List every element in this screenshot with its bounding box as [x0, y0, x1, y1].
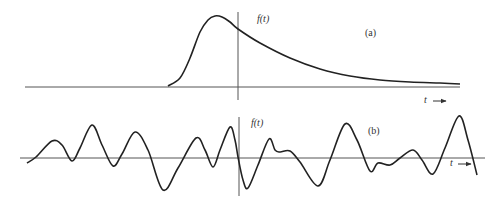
panel-a: [25, 12, 460, 101]
panel-b-func-label: f(t): [251, 117, 263, 128]
panel-b-t-label: t: [450, 157, 453, 168]
panel-a-t-label: t: [424, 94, 427, 105]
panel-a-func-label: f(t): [257, 13, 269, 24]
panel-a-panel-label: (a): [365, 27, 376, 38]
panel-a-curve: [168, 16, 460, 86]
panel-b-panel-label: (b): [368, 125, 380, 136]
